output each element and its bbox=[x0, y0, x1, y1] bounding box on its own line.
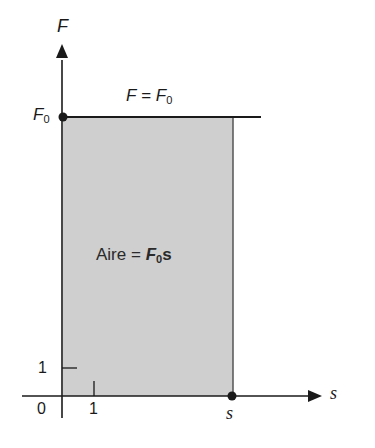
f0-label-main: F bbox=[33, 105, 43, 124]
x-axis-label: s bbox=[330, 384, 337, 402]
f0-label-sub: 0 bbox=[43, 113, 49, 125]
x-axis-arrow-icon bbox=[308, 390, 322, 402]
constant-force-label: F = F0 bbox=[126, 87, 172, 106]
y-axis-arrow-icon bbox=[56, 44, 68, 58]
line-label-rhs: F bbox=[156, 86, 166, 105]
area-label-word: Aire bbox=[96, 245, 126, 264]
s-point bbox=[228, 392, 237, 401]
line-label-eq: = bbox=[141, 86, 151, 105]
f0-label: F0 bbox=[33, 106, 50, 125]
s-point-label: s bbox=[226, 404, 233, 422]
y-axis-label: F bbox=[57, 17, 68, 35]
line-label-rhs-sub: 0 bbox=[166, 94, 172, 106]
area-label-F: F bbox=[146, 245, 156, 264]
y-tick-1-label: 1 bbox=[38, 360, 47, 376]
area-label: Aire = F0s bbox=[96, 246, 172, 265]
x-tick-1-label: 1 bbox=[89, 401, 98, 417]
origin-label: 0 bbox=[37, 401, 46, 417]
area-label-eq: = bbox=[131, 245, 141, 264]
graph-canvas bbox=[0, 0, 375, 448]
line-label-lhs: F bbox=[126, 86, 136, 105]
area-label-s: s bbox=[162, 245, 171, 264]
f0-point bbox=[59, 113, 68, 122]
